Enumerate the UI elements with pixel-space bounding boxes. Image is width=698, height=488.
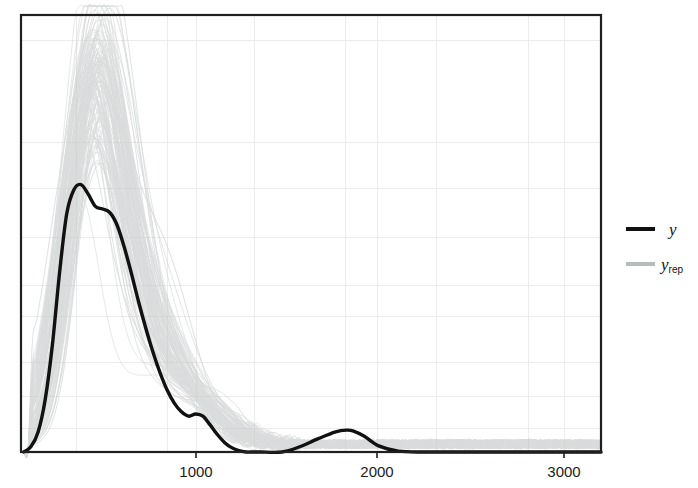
x-tick-label: 2000 [360, 463, 393, 480]
figure-canvas: 100020003000 y yrep [0, 0, 698, 488]
legend: y yrep [626, 220, 683, 275]
x-axis-ticks: 100020003000 [179, 452, 580, 480]
ppc-density-plot: 100020003000 y yrep [0, 0, 698, 488]
x-tick-label: 1000 [179, 463, 212, 480]
x-tick-label: 3000 [547, 463, 580, 480]
legend-label-y: y [667, 220, 677, 239]
legend-label-yrep: yrep [659, 255, 683, 275]
